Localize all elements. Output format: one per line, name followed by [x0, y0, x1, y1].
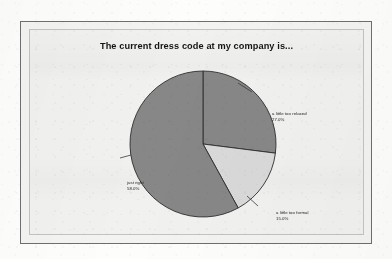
pie-label-a-little-too-relaxed: a little too relaxed 27.0%: [272, 111, 307, 122]
pie-chart-svg: [30, 30, 364, 235]
pie-label-percent: 27.0%: [272, 117, 307, 123]
pie-label-percent: 58.0%: [127, 186, 144, 192]
pie-label-percent: 15.0%: [276, 216, 308, 222]
pie-label-category: a little too relaxed: [272, 111, 307, 117]
chart-panel: The current dress code at my company is.…: [29, 29, 364, 235]
pie-label-just-right: just right 58.0%: [127, 180, 144, 191]
screenshot-canvas: The current dress code at my company is.…: [0, 0, 392, 259]
pie-slice-a-little-too-relaxed[interactable]: [203, 71, 276, 153]
pie-label-category: a little too formal: [276, 210, 308, 216]
pie-label-category: just right: [127, 180, 144, 186]
leader-line-just-right: [120, 155, 131, 158]
pie-chart-plot-area: a little too relaxed 27.0% a little too …: [30, 30, 363, 234]
pie-label-a-little-too-formal: a little too formal 15.0%: [276, 210, 308, 221]
chart-outer-frame: The current dress code at my company is.…: [20, 21, 372, 244]
